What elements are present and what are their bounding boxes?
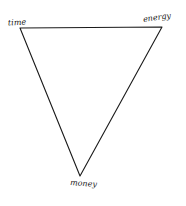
triangle-shape <box>0 0 186 206</box>
vertex-label-time: time <box>8 19 26 28</box>
triangle-diagram: time energy money <box>0 0 186 206</box>
